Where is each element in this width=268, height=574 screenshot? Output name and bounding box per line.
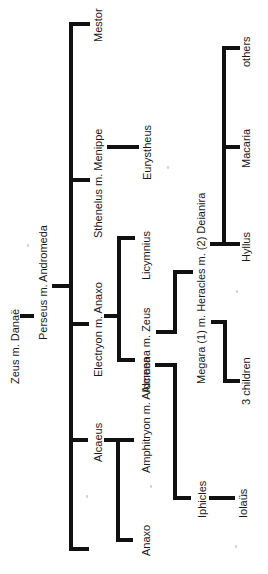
- node-sthenelus: Sthenelus m. Menippe: [92, 129, 104, 238]
- scan-speck: [27, 244, 29, 247]
- tick-alcaeus: [69, 438, 88, 442]
- node-others: others: [240, 36, 252, 67]
- amphitryon-children-bracket: [173, 363, 177, 499]
- perseus-children-bracket: [69, 22, 73, 551]
- node-amphitryon: Amphitryon m. Alcmena: [140, 357, 152, 473]
- tick-licymnius: [117, 236, 135, 240]
- tick-iphicles: [173, 496, 191, 500]
- scan-speck: [150, 485, 152, 488]
- edge-heracles-megara-children-v: [223, 320, 227, 382]
- tick-alcmena: [117, 358, 135, 362]
- node-zeus-danae: Zeus m. Danaë: [9, 309, 21, 384]
- node-three-children: 3 children: [240, 357, 252, 405]
- node-iphicles: Iphicles: [196, 481, 208, 518]
- family-tree-diagram: Zeus m. Danaë Perseus m. Andromeda Mesto…: [0, 0, 268, 574]
- node-perseus: Perseus m. Andromeda: [37, 225, 49, 340]
- tick-anaxo: [116, 538, 133, 542]
- alcaeus-children-bracket: [116, 438, 120, 542]
- tick-perses: [69, 547, 89, 551]
- tick-mestor: [69, 22, 90, 26]
- tick-sthenelus: [69, 178, 90, 182]
- electryon-children-bracket: [117, 236, 121, 362]
- node-iolaus: Iolaüs: [237, 489, 249, 518]
- edge-alcmena-heracles-v: [173, 270, 177, 334]
- node-hyllus: Hyllus: [240, 232, 252, 262]
- node-licymnius: Licymnius: [140, 231, 152, 280]
- node-electryon: Electryon m. Anaxo: [92, 282, 104, 377]
- node-alcaeus: Alcaeus: [92, 423, 104, 462]
- tick-hyllus: [222, 242, 240, 246]
- tick-three-children: [223, 379, 240, 383]
- edge-sthenelus-eurystheus: [107, 145, 139, 149]
- node-mestor: Mestor: [92, 8, 104, 42]
- tick-others: [222, 46, 240, 50]
- scan-speck: [167, 166, 169, 169]
- edge-alcmena-heracles-top: [173, 270, 193, 274]
- node-anaxo: Anaxo: [140, 525, 152, 556]
- tick-electryon: [69, 322, 89, 326]
- node-eurystheus: Eurystheus: [141, 125, 153, 180]
- edge-zeus-perseus: [20, 314, 34, 318]
- edge-iphicles-iolaus: [209, 496, 235, 500]
- tick-macaria: [222, 145, 240, 149]
- node-macaria: Macaria: [240, 129, 252, 168]
- node-heracles: Megara (1) m. Heracles m. (2) Deianira: [195, 193, 207, 384]
- scan-speck: [235, 545, 237, 548]
- scan-speck: [236, 290, 238, 293]
- scan-speck: [86, 495, 88, 498]
